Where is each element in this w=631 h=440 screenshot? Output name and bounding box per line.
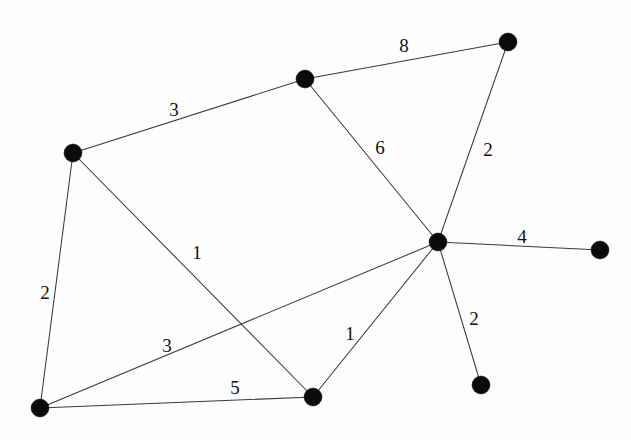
edge-weight-label-n6-n7: 5: [230, 378, 240, 397]
graph-edge-n1-n7: [73, 153, 313, 397]
graph-svg: [0, 0, 631, 440]
bottom-middle-node: [304, 388, 322, 406]
far-right-node: [591, 241, 609, 259]
edge-weight-label-n3-n4: 2: [483, 140, 493, 159]
graph-edge-n4-n7: [313, 242, 438, 397]
hub-node: [429, 233, 447, 251]
graph-diagram-canvas: 38624312215: [0, 0, 631, 440]
edge-weight-label-n1-n2: 3: [169, 100, 179, 119]
edges-layer: [40, 42, 600, 408]
edge-weight-label-n2-n3: 8: [399, 36, 409, 55]
graph-edge-n1-n2: [73, 79, 305, 153]
edge-weight-label-n1-n6: 2: [40, 283, 50, 302]
edge-weight-label-n4-n5: 4: [517, 227, 527, 246]
graph-edge-n3-n4: [438, 42, 508, 242]
edge-weight-label-n2-n4: 6: [375, 138, 385, 157]
top-middle-node: [296, 70, 314, 88]
edge-weight-label-n4-n7: 1: [345, 324, 355, 343]
bottom-right-node: [472, 376, 490, 394]
graph-edge-n1-n6: [40, 153, 73, 408]
edge-weight-label-n4-n8: 2: [469, 309, 479, 328]
bottom-left-node: [31, 399, 49, 417]
edge-weight-label-n1-n7: 1: [192, 243, 202, 262]
edge-weight-label-n4-n6: 3: [162, 336, 172, 355]
top-left-node: [64, 144, 82, 162]
graph-edge-n2-n4: [305, 79, 438, 242]
top-right-node: [499, 33, 517, 51]
graph-edge-n6-n7: [40, 397, 313, 408]
